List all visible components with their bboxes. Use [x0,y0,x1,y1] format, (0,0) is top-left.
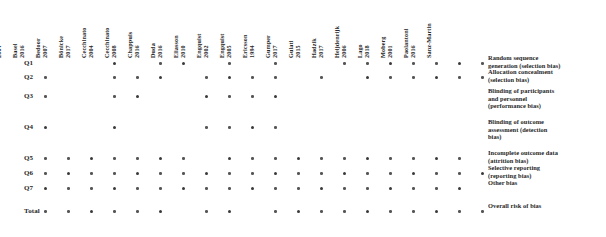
cell-dot [297,157,300,160]
cell-dot [320,157,323,160]
cell-dot [481,172,484,175]
legend-line: Incomplete outcome data [488,149,606,157]
legend-item-q7: Other bias [488,179,606,187]
cell-dot [228,210,231,213]
cell-dot [113,210,116,213]
cell-dot [412,62,415,65]
column-header-year: 2001 [387,0,394,58]
column-header-year: 2008 [111,0,118,58]
cell-dot [67,172,70,175]
cell-dot [44,76,47,79]
legend-item-q1: Random sequencegeneration (selection bia… [488,54,606,69]
cell-dot [320,76,323,79]
legend-line: Allocation concealment [488,68,606,76]
cell-dot [435,157,438,160]
column-header-20: Sanz-Martin [426,0,484,58]
cell-dot [159,172,162,175]
legend-line: Other bias [488,179,606,187]
cell-dot [205,76,208,79]
cell-dot [343,157,346,160]
legend-line: Random sequence [488,54,606,62]
cell-dot [389,187,392,190]
cell-dot [320,210,323,213]
cell-dot [90,187,93,190]
cell-dot [251,76,254,79]
legend-line: (selection bias) [488,76,606,84]
cell-dot [435,187,438,190]
cell-dot [320,172,323,175]
cell-dot [435,62,438,65]
cell-dot [228,172,231,175]
legend-line: Selective reporting [488,164,606,172]
legend-line: Overall risk of bias [488,202,606,210]
cell-dot [389,157,392,160]
cell-dot [113,187,116,190]
cell-dot [251,95,254,98]
cell-dot [205,126,208,129]
cell-dot [159,76,162,79]
cell-dot [228,187,231,190]
cell-dot [458,157,461,160]
cell-dot [136,187,139,190]
legend-item-q3: Blinding of participantsand personnel(pe… [488,87,606,110]
cell-dot [228,76,231,79]
cell-dot [205,172,208,175]
cell-dot [320,187,323,190]
cell-dot [90,157,93,160]
cell-dot [458,62,461,65]
cell-dot [343,172,346,175]
cell-dot [182,187,185,190]
cell-dot [44,210,47,213]
legend-line: Blinding of outcome [488,118,606,126]
cell-dot [412,172,415,175]
cell-dot [343,210,346,213]
cell-dot [182,62,185,65]
cell-dot [343,187,346,190]
cell-dot [481,62,484,65]
column-header-year: 2016 [410,0,417,58]
cell-dot [113,76,116,79]
cell-dot [412,157,415,160]
column-header-row: Åstrand2004Basel2016Bedoor2007Bönicke201… [0,0,606,58]
cell-dot [113,157,116,160]
cell-dot [44,95,47,98]
legend-line: bias) [488,133,606,141]
cell-dot [159,62,162,65]
cell-dot [366,187,369,190]
cell-dot [113,172,116,175]
cell-dot [136,76,139,79]
column-header-name: Sanz-Martin [426,0,433,58]
cell-dot [297,172,300,175]
cell-dot [90,172,93,175]
legend-line: assessment (detection [488,126,606,134]
cell-dot [389,76,392,79]
cell-dot [251,157,254,160]
column-header-year: 2016 [134,0,141,58]
cell-dot [274,157,277,160]
cell-dot [274,62,277,65]
cell-dot [458,172,461,175]
cell-dot [274,187,277,190]
cell-dot [182,172,185,175]
cell-dot [67,157,70,160]
cell-dot [389,62,392,65]
column-header-year: 2017 [65,0,72,58]
column-header-year: 2010 [180,0,187,58]
column-header-year: 2002 [203,0,210,58]
cell-dot [366,62,369,65]
cell-dot [366,76,369,79]
cell-dot [251,187,254,190]
cell-dot [274,95,277,98]
column-header-year: 1994 [249,0,256,58]
column-header-year: 2016 [157,0,164,58]
cell-dot [67,210,70,213]
cell-dot [274,172,277,175]
cell-dot [435,210,438,213]
cell-dot [182,157,185,160]
cell-dot [205,210,208,213]
cell-dot [159,187,162,190]
column-header-year: 2015 [295,0,302,58]
row-label-q1: Q1 [24,59,50,67]
cell-dot [435,172,438,175]
cell-dot [251,172,254,175]
